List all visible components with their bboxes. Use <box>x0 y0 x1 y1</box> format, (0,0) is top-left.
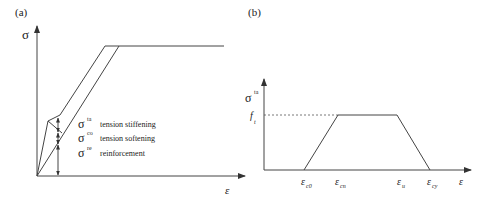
x-tick-epsilon-cn: ε cn <box>335 176 346 189</box>
epsilon-cy-symbol: ε <box>427 176 431 187</box>
panel-b-x-axis-label: ε <box>459 176 463 187</box>
epsilon-cy-sub: cy <box>432 183 438 189</box>
epsilon-cn-sub: cn <box>340 183 346 189</box>
epsilon-cn-symbol: ε <box>335 176 339 187</box>
epsilon-c0-sub: c0 <box>306 183 312 189</box>
legend-item-reinforcement: σ re reinforcement <box>78 145 146 160</box>
tension-stiffening-trapezoid <box>304 115 430 170</box>
panel-a: (a) σ ε σ ta tension stiffening σ co ten… <box>15 6 245 196</box>
legend-text-tension-softening: tension softening <box>100 134 155 143</box>
panel-b-label: (b) <box>248 6 261 19</box>
epsilon-u-sub: u <box>402 183 405 189</box>
legend-text-tension-stiffening: tension stiffening <box>100 120 156 129</box>
panel-a-label: (a) <box>15 6 28 19</box>
x-tick-epsilon-u: ε u <box>397 176 405 189</box>
x-tick-epsilon-c0: ε c0 <box>301 176 312 189</box>
sigma-ta-symbol: σ <box>78 117 85 131</box>
figure: (a) σ ε σ ta tension stiffening σ co ten… <box>0 0 492 197</box>
panel-a-x-axis-label: ε <box>225 184 230 196</box>
sigma-re-sup: re <box>87 145 92 151</box>
epsilon-c0-symbol: ε <box>301 176 305 187</box>
sigma-ta-sup: ta <box>87 116 92 122</box>
sigma-co-sup: co <box>87 130 93 136</box>
sigma-re-symbol: σ <box>78 146 85 160</box>
sigma-co-symbol: σ <box>78 131 85 145</box>
legend-text-reinforcement: reinforcement <box>100 149 146 158</box>
x-tick-epsilon-cy: ε cy <box>427 176 438 189</box>
epsilon-u-symbol: ε <box>397 176 401 187</box>
legend-item-tension-stiffening: σ ta tension stiffening <box>78 116 156 131</box>
legend-item-tension-softening: σ co tension softening <box>78 130 155 145</box>
tension-softening-segment <box>48 121 62 133</box>
ft-sub: t <box>254 119 256 125</box>
panel-a-y-axis-label: σ <box>22 27 29 42</box>
panel-b-y-axis-sup: ta <box>254 89 259 95</box>
panel-b-y-axis-label: σ <box>245 91 252 105</box>
panel-b: (b) σ ta f t ε c0 ε cn ε u ε cy ε <box>245 6 471 189</box>
panel-a-legend: σ ta tension stiffening σ co tension sof… <box>78 116 156 160</box>
